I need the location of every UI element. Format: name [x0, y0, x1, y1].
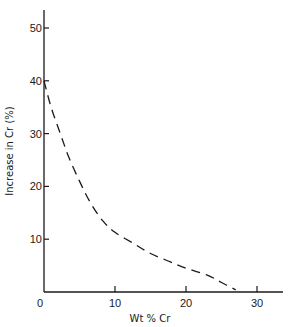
- axes: [44, 10, 283, 292]
- x-ticks: 102030: [109, 286, 263, 309]
- y-ticks: 1020304050: [30, 22, 49, 245]
- y-tick-label: 40: [30, 75, 42, 87]
- y-tick-label: 20: [30, 180, 42, 192]
- y-axis-label: Increase in Cr (%): [4, 106, 15, 195]
- y-tick-label: 30: [30, 128, 42, 140]
- x-axis-label: Wt % Cr: [130, 313, 172, 324]
- y-tick-label: 50: [30, 22, 42, 34]
- x-tick-label: 10: [109, 297, 121, 309]
- chart: 1020304050 102030 0 Wt % Cr Increase in …: [0, 0, 292, 327]
- x-tick-label: 30: [251, 297, 263, 309]
- y-tick-label: 10: [30, 233, 42, 245]
- x-tick-label: 20: [180, 297, 192, 309]
- origin-label: 0: [37, 297, 43, 309]
- dashed-curve: [44, 81, 236, 290]
